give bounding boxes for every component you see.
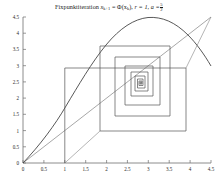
x-tick-marks [23,160,211,163]
x-tick-label-2-5: 2.5 [124,166,130,172]
x-tick-label-0-5: 0.5 [41,166,47,172]
y-tick-label-0-5: 0.5 [2,144,19,150]
identity-line [23,17,211,163]
cobweb-plot [0,0,218,180]
cobweb-path [65,46,186,163]
x-tick-label-1: 1 [64,166,67,172]
y-tick-marks [23,17,26,163]
y-tick-label-3: 3 [2,63,19,69]
y-tick-label-2-5: 2.5 [2,79,19,85]
x-tick-label-2: 2 [105,166,108,172]
y-tick-label-2: 2 [2,95,19,101]
x-tick-label-3-5: 3.5 [166,166,172,172]
cobweb-diagonal-links [65,17,211,163]
y-tick-label-0: 0 [2,160,19,166]
y-tick-label-1: 1 [2,128,19,134]
y-tick-label-4-5: 4.5 [2,14,19,20]
y-tick-label-3-5: 3.5 [2,46,19,52]
x-tick-label-4: 4 [189,166,192,172]
x-tick-label-0: 0 [22,166,25,172]
x-tick-label-4-5: 4.5 [208,166,214,172]
y-tick-label-1-5: 1.5 [2,111,19,117]
x-tick-label-1-5: 1.5 [83,166,89,172]
y-tick-label-4: 4 [2,30,19,36]
x-tick-label-3: 3 [147,166,150,172]
figure-container: Fixpunktiteration xk+1 = Φ(xk), r = 1, a… [0,0,218,180]
